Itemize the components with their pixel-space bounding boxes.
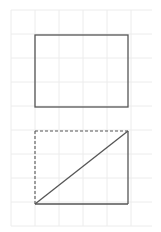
top-rectangle (35, 35, 128, 107)
background-grid (11, 10, 152, 226)
bottom-rectangle-diagonal (35, 131, 128, 204)
diagram-canvas (0, 0, 161, 232)
bottom-rectangle-group (35, 131, 128, 204)
